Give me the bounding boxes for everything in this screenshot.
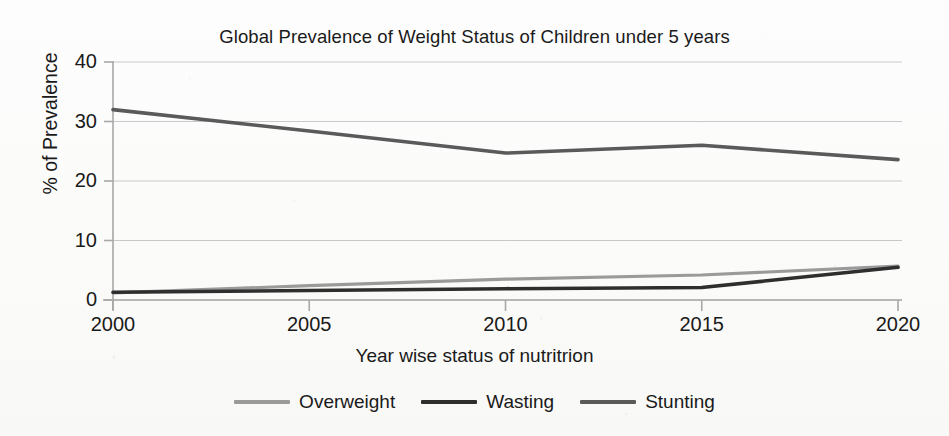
legend-swatch-icon bbox=[580, 400, 636, 404]
legend-label: Overweight bbox=[299, 392, 395, 411]
y-tick-label: 0 bbox=[43, 289, 97, 309]
x-tick-label: 2020 bbox=[853, 314, 943, 334]
line-chart-plot-area bbox=[0, 0, 949, 436]
legend-label: Stunting bbox=[645, 392, 715, 411]
x-tick-label: 2005 bbox=[264, 314, 354, 334]
y-axis-title: % of Prevalence bbox=[39, 4, 62, 244]
legend-item-wasting[interactable]: Wasting bbox=[421, 392, 554, 411]
x-axis-title: Year wise status of nutritrion bbox=[0, 345, 949, 367]
legend-item-stunting[interactable]: Stunting bbox=[580, 392, 715, 411]
chart-page: Global Prevalence of Weight Status of Ch… bbox=[0, 0, 949, 436]
legend-label: Wasting bbox=[486, 392, 554, 411]
gridlines-group bbox=[113, 62, 902, 300]
tickmarks-group bbox=[104, 62, 898, 311]
x-tick-label: 2000 bbox=[68, 314, 158, 334]
x-tick-label: 2010 bbox=[461, 314, 551, 334]
series-line-stunting bbox=[113, 110, 898, 160]
x-tick-label: 2015 bbox=[657, 314, 747, 334]
legend-swatch-icon bbox=[234, 400, 290, 404]
chart-legend: OverweightWastingStunting bbox=[0, 392, 949, 411]
data-series-group bbox=[113, 110, 898, 293]
legend-item-overweight[interactable]: Overweight bbox=[234, 392, 395, 411]
legend-swatch-icon bbox=[421, 400, 477, 404]
